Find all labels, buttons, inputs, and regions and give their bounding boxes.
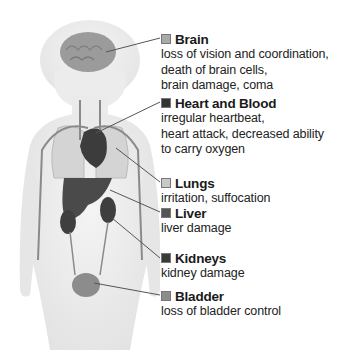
- bladder-swatch-icon: [161, 291, 171, 301]
- brain-swatch-icon: [161, 34, 171, 44]
- label-brain: Brain loss of vision and coordination, d…: [161, 31, 329, 94]
- label-bladder: Bladder loss of bladder control: [161, 288, 281, 320]
- brain-desc-3: brain damage, coma: [161, 78, 329, 94]
- brain-desc-1: loss of vision and coordination,: [161, 47, 329, 63]
- bladder-desc-1: loss of bladder control: [161, 304, 281, 320]
- liver-title: Liver: [175, 206, 206, 221]
- bladder-title: Bladder: [175, 289, 224, 304]
- kidneys-desc-1: kidney damage: [161, 266, 244, 282]
- label-kidneys: Kidneys kidney damage: [161, 250, 244, 282]
- bladder-organ: [72, 273, 100, 297]
- kidneys-title: Kidneys: [175, 251, 226, 266]
- lungs-title: Lungs: [175, 176, 215, 191]
- heart-desc-3: to carry oxygen: [161, 142, 324, 158]
- label-lungs: Lungs irritation, suffocation: [161, 175, 270, 207]
- heart-desc-1: irregular heartbeat,: [161, 111, 324, 127]
- liver-desc-1: liver damage: [161, 221, 231, 237]
- label-heart-and-blood: Heart and Blood irregular heartbeat, hea…: [161, 95, 324, 158]
- brain-desc-2: death of brain cells,: [161, 63, 329, 79]
- heart-title: Heart and Blood: [175, 96, 276, 111]
- kidneys-swatch-icon: [161, 253, 171, 263]
- body-organ-diagram: Brain loss of vision and coordination, d…: [0, 0, 348, 350]
- heart-swatch-icon: [161, 98, 171, 108]
- lungs-swatch-icon: [161, 178, 171, 188]
- brain-title: Brain: [175, 32, 209, 47]
- label-liver: Liver liver damage: [161, 205, 231, 237]
- heart-desc-2: heart attack, decreased ability: [161, 127, 324, 143]
- liver-swatch-icon: [161, 208, 171, 218]
